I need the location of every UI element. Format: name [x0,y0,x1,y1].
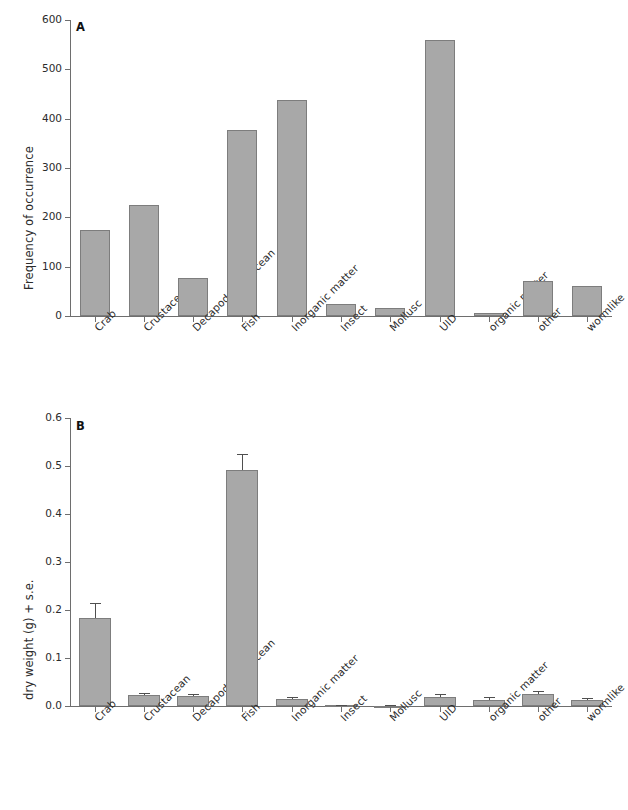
error-bar-cap [435,694,446,695]
panel-b-letter: B [76,419,85,433]
y-axis-tick-label: 100 [22,260,62,272]
y-axis-tick-label: 0.0 [22,699,62,711]
y-axis-tick-label: 0.3 [22,555,62,567]
error-bar-cap [336,705,347,706]
y-axis-tick [65,168,70,169]
y-axis-line [70,20,71,317]
y-axis-tick [65,267,70,268]
y-axis-tick [65,316,70,317]
bar [425,40,455,316]
panel-b-y-axis-label: dry weight (g) + s.e. [22,579,36,700]
y-axis-tick-label: 0.1 [22,651,62,663]
error-bar-cap [287,697,298,698]
y-axis-tick [65,20,70,21]
bar [226,470,258,706]
error-bar-stem [95,603,96,618]
error-bar-cap [237,454,248,455]
y-axis-tick-label: 0.4 [22,507,62,519]
y-axis-tick-label: 600 [22,13,62,25]
y-axis-tick [65,562,70,563]
bar [79,618,111,706]
x-axis-tick-label: Insect [338,692,369,723]
y-axis-tick-label: 0.2 [22,603,62,615]
bar [277,100,307,316]
y-axis-line [70,418,71,707]
panel-a: A Frequency of occurrence 01002003004005… [0,0,628,400]
y-axis-tick-label: 400 [22,112,62,124]
y-axis-tick [65,658,70,659]
y-axis-tick [65,69,70,70]
y-axis-tick [65,514,70,515]
y-axis-tick-label: 0 [22,309,62,321]
error-bar-cap [484,697,495,698]
error-bar-cap [188,694,199,695]
panel-a-letter: A [76,20,85,34]
y-axis-tick-label: 0.6 [22,411,62,423]
error-bar-cap [582,698,593,699]
y-axis-tick [65,610,70,611]
y-axis-tick-label: 200 [22,210,62,222]
figure-container: A Frequency of occurrence 01002003004005… [0,0,628,810]
error-bar-cap [139,693,150,694]
y-axis-tick [65,119,70,120]
y-axis-tick-label: 0.5 [22,459,62,471]
panel-b: B dry weight (g) + s.e. 0.00.10.20.30.40… [0,400,628,810]
error-bar-cap [533,691,544,692]
y-axis-tick [65,706,70,707]
y-axis-tick [65,418,70,419]
y-axis-tick-label: 300 [22,161,62,173]
bar [227,130,257,316]
error-bar-cap [90,603,101,604]
bar [129,205,159,316]
bar [80,230,110,316]
y-axis-tick [65,217,70,218]
error-bar-stem [242,454,243,471]
y-axis-tick [65,466,70,467]
y-axis-tick-label: 500 [22,62,62,74]
